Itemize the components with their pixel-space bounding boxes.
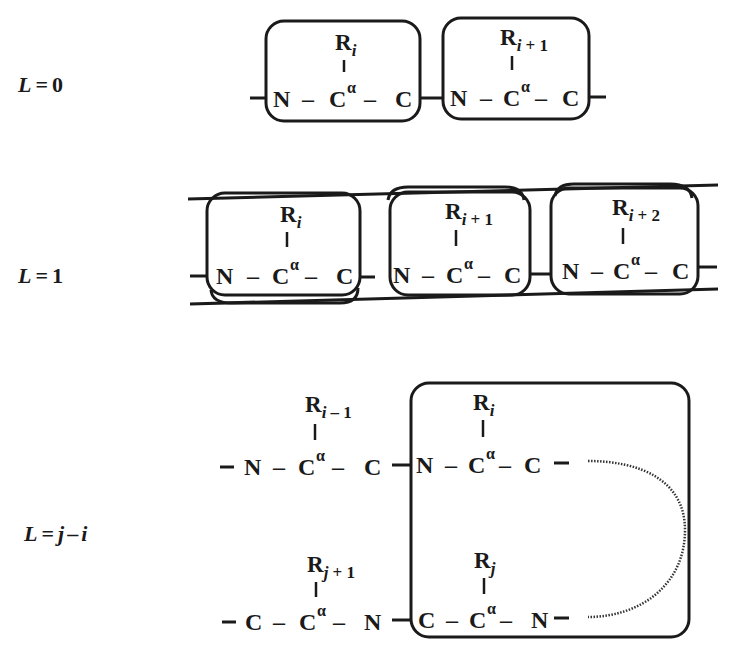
atom-calpha: C bbox=[446, 262, 463, 288]
residue-i: Ri N – C α – C bbox=[273, 30, 412, 112]
atom-n: N bbox=[416, 452, 434, 478]
atom-c: C bbox=[245, 609, 262, 635]
bond-dash: – bbox=[644, 258, 658, 284]
atom-calpha: C bbox=[503, 85, 520, 111]
bond-dash: – bbox=[363, 86, 377, 112]
bond-dash: – bbox=[534, 85, 548, 111]
side-chain-label: Ri – 1 bbox=[305, 392, 352, 422]
side-chain-label: Rj bbox=[474, 548, 496, 578]
atom-c: C bbox=[364, 454, 381, 480]
alpha-superscript: α bbox=[486, 445, 495, 462]
atom-calpha: C bbox=[298, 454, 315, 480]
row-label-l1: L=1 bbox=[17, 263, 63, 288]
side-chain-label: Ri bbox=[335, 30, 357, 60]
bond-dash: – bbox=[499, 607, 513, 633]
row-l1: L=1 Ri N – C α – C Ri + 1 bbox=[17, 184, 718, 304]
top-chain: Ri – 1 N – C α – C Ri N – C α – C bbox=[220, 390, 569, 480]
bond-dash: – bbox=[272, 454, 286, 480]
side-chain-label: Ri + 2 bbox=[612, 195, 660, 225]
atom-n: N bbox=[216, 263, 234, 289]
bond-dash: – bbox=[498, 452, 512, 478]
atom-n: N bbox=[450, 85, 468, 111]
bond-dash: – bbox=[444, 452, 458, 478]
bond-dash: – bbox=[479, 85, 493, 111]
atom-c: C bbox=[504, 262, 521, 288]
side-chain-label: Ri + 1 bbox=[500, 25, 548, 55]
atom-n: N bbox=[273, 86, 291, 112]
atom-calpha: C bbox=[272, 263, 289, 289]
atom-c: C bbox=[395, 86, 412, 112]
alpha-superscript: α bbox=[317, 602, 326, 619]
peptide-window-diagram: L=0 Ri N – C α – C Ri + 1 N – C α – C bbox=[0, 0, 738, 660]
side-chain-label: Rj + 1 bbox=[307, 552, 355, 582]
alpha-superscript: α bbox=[464, 255, 473, 272]
residue-i: Ri N – C α – C bbox=[216, 202, 353, 289]
residue-i-plus-2: Ri + 2 N – C α – C bbox=[562, 195, 689, 284]
atom-n: N bbox=[364, 609, 382, 635]
atom-n: N bbox=[244, 454, 262, 480]
alpha-superscript: α bbox=[521, 78, 530, 95]
bond-dash: – bbox=[445, 607, 459, 633]
row-label-l-j-minus-i: L=j–i bbox=[23, 521, 88, 546]
alpha-superscript: α bbox=[316, 447, 325, 464]
bond-dash: – bbox=[304, 263, 318, 289]
atom-c: C bbox=[336, 263, 353, 289]
bond-dash: – bbox=[331, 454, 345, 480]
atom-calpha: C bbox=[329, 86, 346, 112]
bond-dash: – bbox=[272, 609, 286, 635]
residue-i-plus-1: Ri + 1 N – C α – C bbox=[393, 199, 521, 288]
bond-dash: – bbox=[301, 86, 315, 112]
alpha-superscript: α bbox=[347, 79, 356, 96]
atom-n: N bbox=[562, 258, 580, 284]
row-label-l0: L=0 bbox=[17, 72, 63, 97]
atom-n: N bbox=[531, 607, 549, 633]
atom-c: C bbox=[562, 85, 579, 111]
loop-dotted-connection bbox=[588, 461, 685, 617]
alpha-superscript: α bbox=[631, 251, 640, 268]
row-l-j-minus-i: L=j–i Ri – 1 N – C α – C Ri N – C α – C bbox=[23, 383, 689, 637]
atom-calpha: C bbox=[613, 258, 630, 284]
atom-c: C bbox=[524, 452, 541, 478]
side-chain-label: Ri + 1 bbox=[445, 199, 493, 229]
bottom-chain: Rj + 1 C – C α – N Rj C – C α – N bbox=[222, 548, 569, 635]
atom-n: N bbox=[393, 262, 411, 288]
atom-c: C bbox=[418, 607, 435, 633]
bond-dash: – bbox=[421, 262, 435, 288]
residue-i-plus-1: Ri + 1 N – C α – C bbox=[450, 25, 579, 111]
alpha-superscript: α bbox=[487, 600, 496, 617]
bond-dash: – bbox=[590, 258, 604, 284]
atom-calpha: C bbox=[468, 452, 485, 478]
window-box-i-j bbox=[411, 383, 689, 637]
bond-dash: – bbox=[332, 609, 346, 635]
atom-calpha: C bbox=[299, 609, 316, 635]
atom-c: C bbox=[672, 258, 689, 284]
alpha-superscript: α bbox=[290, 256, 299, 273]
row-l0: L=0 Ri N – C α – C Ri + 1 N – C α – C bbox=[17, 18, 606, 121]
side-chain-label: Ri bbox=[473, 390, 495, 420]
bond-dash: – bbox=[477, 262, 491, 288]
bond-dash: – bbox=[246, 263, 260, 289]
side-chain-label: Ri bbox=[280, 202, 302, 232]
atom-calpha: C bbox=[469, 607, 486, 633]
